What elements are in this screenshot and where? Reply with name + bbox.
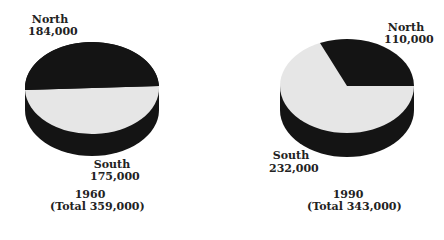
pie-1990-south-value: 232,000 [269, 163, 313, 175]
pie-1960-north-value: 184,000 [28, 26, 72, 38]
pie-1990 [280, 39, 414, 157]
pie-1960-total: (Total 359,000) [50, 201, 132, 213]
pie-1990-total: (Total 343,000) [307, 201, 389, 213]
pie-1990-south-label: South [271, 150, 311, 162]
pie-1960-south-value: 175,000 [90, 171, 134, 183]
pie-1960 [25, 42, 159, 156]
pie-1990-north-value: 110,000 [384, 34, 428, 46]
pie-1960-north-slice [25, 42, 159, 90]
